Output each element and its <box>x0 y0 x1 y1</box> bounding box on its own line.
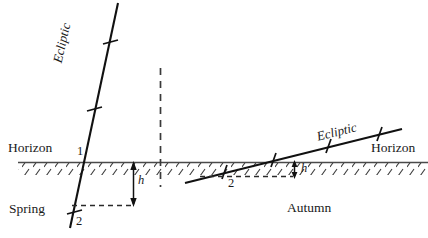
height-label-autumn: h <box>301 162 307 175</box>
point-1-label-spring: 1 <box>77 145 83 158</box>
height-label-spring: h <box>138 174 144 187</box>
spring-panel-graphics <box>67 3 137 228</box>
season-label-autumn: Autumn <box>287 201 331 215</box>
ecliptic-horizon-diagram: Horizon 1 2 Spring Ecliptic h 2 Ecliptic… <box>0 0 428 238</box>
season-label-spring: Spring <box>9 202 45 216</box>
point-2-label-spring: 2 <box>76 215 82 228</box>
ecliptic-line-spring <box>70 3 118 228</box>
horizon-label-autumn: Horizon <box>371 141 415 155</box>
h-measure-arrow-spring <box>130 161 136 207</box>
point-2-label-autumn: 2 <box>228 177 234 190</box>
horizon-label-spring: Horizon <box>8 141 52 155</box>
